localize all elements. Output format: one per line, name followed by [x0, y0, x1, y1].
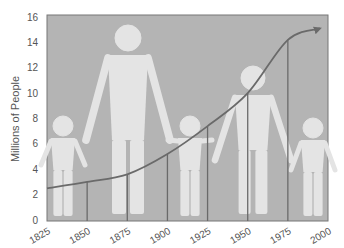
x-tick-label: 1825: [27, 225, 52, 246]
y-tick-label: 6: [32, 138, 38, 149]
y-tick-label: 16: [27, 12, 39, 23]
x-tick-label: 1900: [148, 225, 173, 246]
x-axis-ticks: 18251850187519001925195019752000: [27, 225, 333, 246]
x-tick-label: 1925: [188, 225, 213, 246]
y-axis-ticks: 0246810121416: [27, 12, 39, 226]
y-tick-label: 14: [27, 37, 39, 48]
y-tick-label: 0: [32, 215, 38, 226]
x-tick-label: 1850: [67, 225, 92, 246]
y-tick-label: 10: [27, 88, 39, 99]
y-tick-label: 8: [32, 113, 38, 124]
y-axis-label: Millions of People: [9, 76, 21, 162]
y-tick-label: 2: [32, 189, 38, 200]
x-tick-label: 1975: [268, 225, 293, 246]
population-chart: 0246810121416 18251850187519001925195019…: [0, 0, 344, 248]
y-tick-label: 4: [32, 164, 38, 175]
x-tick-label: 1950: [228, 225, 253, 246]
x-tick-label: 2000: [308, 225, 333, 246]
x-tick-label: 1875: [108, 225, 133, 246]
y-tick-label: 12: [27, 62, 39, 73]
